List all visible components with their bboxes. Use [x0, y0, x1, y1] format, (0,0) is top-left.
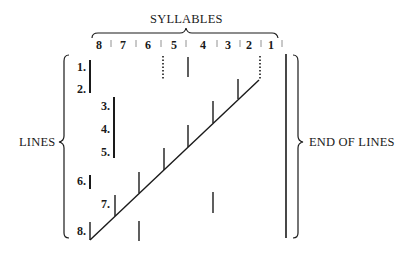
line-4-label: 4. [101, 123, 110, 135]
line-6-label: 6. [77, 175, 86, 187]
syllables-title: SYLLABLES [150, 13, 223, 26]
line-5-label: 5. [101, 146, 110, 158]
break-ticks [90, 79, 238, 240]
syllables-brace [92, 28, 278, 38]
syllable-separators [111, 40, 282, 47]
lines-brace [59, 55, 69, 238]
lines-label: LINES [19, 136, 55, 149]
end-of-lines-label: END OF LINES [309, 136, 395, 149]
line-1-label: 1. [77, 61, 86, 73]
syllable-3: 3 [225, 39, 231, 51]
meter-diagram: SYLLABLES LINES END OF LINES 8 7 6 5 4 3… [0, 0, 414, 254]
syllable-2: 2 [246, 39, 252, 51]
line-2-label: 2. [77, 83, 86, 95]
syllable-1: 1 [268, 39, 274, 51]
line-8-label: 8. [77, 225, 86, 237]
end-of-lines-brace [293, 55, 303, 238]
dotted-marks [163, 56, 260, 80]
line-3-label: 3. [101, 100, 110, 112]
syllable-7: 7 [120, 39, 126, 51]
syllable-4: 4 [200, 39, 206, 51]
syllable-6: 6 [145, 39, 151, 51]
caesura-marks [139, 57, 213, 241]
diagram-graphics [0, 0, 414, 254]
syllable-8: 8 [96, 39, 102, 51]
syllable-5: 5 [171, 39, 177, 51]
line-7-label: 7. [101, 198, 110, 210]
